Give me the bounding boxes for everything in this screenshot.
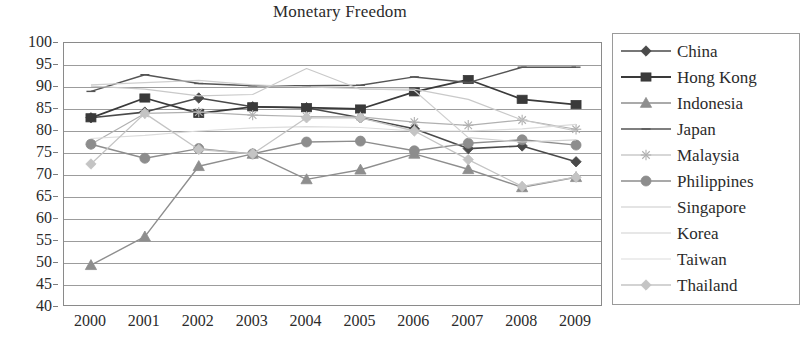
legend-item-japan[interactable]: Japan	[619, 116, 795, 142]
x-tick-label: 2005	[343, 312, 375, 330]
legend-item-hong-kong[interactable]: Hong Kong	[619, 64, 795, 90]
data-point-circle	[86, 139, 96, 149]
y-tick-mark	[53, 306, 58, 307]
legend-item-singapore[interactable]: Singapore	[619, 194, 795, 220]
x-tick-label: 2003	[236, 312, 268, 330]
data-point-square	[86, 114, 96, 122]
data-point-square	[641, 73, 651, 81]
y-tick-label: 45	[36, 276, 52, 292]
y-tick-mark	[53, 152, 58, 153]
data-point-circle	[302, 137, 312, 147]
legend-label: Singapore	[673, 198, 746, 217]
legend-label: Thailand	[673, 276, 737, 295]
legend-label: Japan	[673, 120, 716, 139]
x-tick-label: 2004	[290, 312, 322, 330]
y-tick-label: 100	[28, 34, 52, 50]
data-point-star	[463, 120, 473, 130]
chart-root: Monetary Freedom 10095908580757065605550…	[0, 0, 808, 345]
y-tick-label: 75	[36, 144, 52, 160]
y-tick-mark	[53, 284, 58, 285]
legend-marker-line-icon	[619, 195, 673, 219]
legend-label: Hong Kong	[673, 68, 757, 87]
y-tick-mark	[53, 196, 58, 197]
legend-marker-line-icon	[619, 221, 673, 245]
y-tick-label: 85	[36, 100, 52, 116]
x-tick-label: 2002	[182, 312, 214, 330]
series-korea	[91, 80, 576, 142]
legend-label: Indonesia	[673, 94, 743, 113]
y-tick-mark	[53, 108, 58, 109]
y-tick-label: 50	[36, 254, 52, 270]
data-point-diamond	[463, 154, 473, 164]
legend-label: Korea	[673, 224, 719, 243]
y-tick-mark	[53, 86, 58, 87]
plot-area	[63, 42, 602, 306]
legend-label: China	[673, 42, 718, 61]
x-tick-label: 2007	[451, 312, 483, 330]
legend-item-taiwan[interactable]: Taiwan	[619, 246, 795, 272]
series-thailand	[86, 108, 582, 191]
data-point-square	[248, 103, 258, 111]
x-tick-label: 2000	[74, 312, 106, 330]
legend-marker-diamond-icon	[619, 39, 673, 63]
y-tick-label: 90	[36, 78, 52, 94]
data-point-diamond	[571, 157, 581, 167]
data-point-diamond	[194, 93, 204, 103]
y-tick-label: 70	[36, 166, 52, 182]
y-tick-mark	[53, 262, 58, 263]
series-indonesia	[85, 148, 581, 269]
data-point-square	[302, 104, 312, 112]
y-tick-label: 40	[36, 298, 52, 314]
x-axis: 2000200120022003200420052006200720082009	[63, 308, 602, 338]
data-point-circle	[463, 138, 473, 148]
y-tick-mark	[53, 42, 58, 43]
x-tick-label: 2006	[397, 312, 429, 330]
legend-label: Malaysia	[673, 146, 739, 165]
y-tick-mark	[53, 130, 58, 131]
data-point-circle	[355, 136, 365, 146]
legend: ChinaHong KongIndonesiaJapanMalaysiaPhil…	[612, 33, 800, 305]
y-tick-mark	[53, 64, 58, 65]
x-tick-label: 2001	[128, 312, 160, 330]
legend-marker-square-icon	[619, 65, 673, 89]
y-tick-mark	[53, 174, 58, 175]
data-point-star	[641, 150, 651, 160]
data-point-star	[194, 107, 204, 117]
legend-marker-line-icon	[619, 247, 673, 271]
legend-item-malaysia[interactable]: Malaysia	[619, 142, 795, 168]
legend-item-philippines[interactable]: Philippines	[619, 168, 795, 194]
y-axis: 100959085807570656055504540	[8, 42, 58, 306]
data-point-square	[140, 94, 150, 102]
series-layer	[64, 43, 602, 306]
data-point-diamond	[301, 113, 311, 123]
data-point-triangle	[85, 260, 96, 270]
data-point-circle	[409, 146, 419, 156]
legend-item-china[interactable]: China	[619, 38, 795, 64]
y-tick-label: 65	[36, 188, 52, 204]
x-tick-label: 2009	[559, 312, 591, 330]
y-tick-label: 60	[36, 210, 52, 226]
data-point-star	[571, 124, 581, 134]
y-tick-label: 95	[36, 56, 52, 72]
chart-title: Monetary Freedom	[180, 2, 500, 22]
y-tick-mark	[53, 240, 58, 241]
legend-item-korea[interactable]: Korea	[619, 220, 795, 246]
data-point-circle	[140, 153, 150, 163]
legend-item-indonesia[interactable]: Indonesia	[619, 90, 795, 116]
data-point-square	[517, 95, 527, 103]
series-philippines	[86, 135, 581, 163]
data-point-diamond	[641, 280, 651, 290]
y-tick-label: 55	[36, 232, 52, 248]
data-point-circle	[571, 140, 581, 150]
data-point-diamond	[641, 46, 651, 56]
legend-marker-circle-icon	[619, 169, 673, 193]
legend-marker-triangle-icon	[619, 91, 673, 115]
y-tick-mark	[53, 218, 58, 219]
legend-label: Taiwan	[673, 250, 727, 269]
legend-item-thailand[interactable]: Thailand	[619, 272, 795, 298]
data-point-star	[247, 110, 257, 120]
y-tick-label: 80	[36, 122, 52, 138]
data-point-square	[571, 101, 581, 109]
legend-marker-diamond-icon	[619, 273, 673, 297]
data-point-circle	[641, 176, 651, 186]
